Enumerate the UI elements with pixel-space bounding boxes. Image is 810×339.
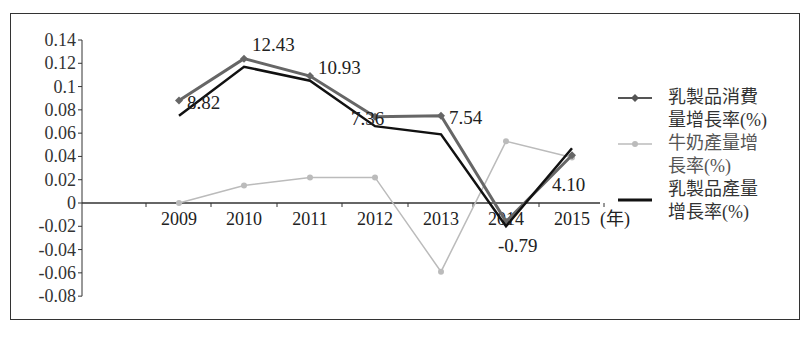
y-tick-label: 0.02	[45, 170, 77, 190]
marker-circle	[372, 174, 378, 180]
x-tick-label: 2015	[554, 209, 590, 229]
y-tick-label: -0.06	[39, 263, 77, 283]
y-tick-label: 0.14	[45, 30, 77, 50]
legend-marker-consumption	[631, 94, 639, 102]
y-tick-label: 0.12	[45, 53, 77, 73]
x-tick-label: 2013	[423, 209, 459, 229]
legend-item-production: 乳製品產量 增長率(%)	[668, 178, 803, 224]
marker-circle	[438, 269, 444, 275]
legend-item-consumption: 乳製品消費 量增長率(%)	[668, 86, 803, 132]
y-tick-label: 0	[67, 193, 76, 213]
y-tick-label: 0.04	[45, 146, 77, 166]
data-label: 4.10	[552, 174, 585, 195]
legend-marker-milk	[632, 141, 638, 147]
marker-circle	[307, 174, 313, 180]
data-label: 8.82	[187, 92, 220, 113]
y-tick-label: 0.06	[45, 123, 77, 143]
data-label: -0.79	[498, 235, 538, 256]
x-tick-label: 2009	[161, 209, 197, 229]
y-tick-label: -0.02	[39, 216, 77, 236]
marker-circle	[503, 138, 509, 144]
legend: 乳製品消費 量增長率(%) 牛奶產量增 長率(%) 乳製品產量 增長率(%)	[668, 86, 803, 224]
legend-item-milk: 牛奶產量增 長率(%)	[668, 132, 803, 178]
series-line	[179, 59, 572, 222]
data-label: 10.93	[318, 57, 361, 78]
y-tick-label: 0.08	[45, 100, 77, 120]
x-unit-label: (年)	[600, 209, 630, 230]
y-tick-label: -0.08	[39, 286, 77, 306]
y-tick-label: 0.1	[54, 77, 77, 97]
y-tick-label: -0.04	[39, 240, 77, 260]
marker-circle	[176, 200, 182, 206]
x-tick-label: 2010	[226, 209, 262, 229]
marker-circle	[241, 183, 247, 189]
data-label: 7.54	[449, 107, 483, 128]
x-tick-label: 2012	[357, 209, 393, 229]
data-label: 7.36	[351, 108, 384, 129]
x-tick-label: 2011	[292, 209, 327, 229]
data-label: 12.43	[252, 34, 295, 55]
